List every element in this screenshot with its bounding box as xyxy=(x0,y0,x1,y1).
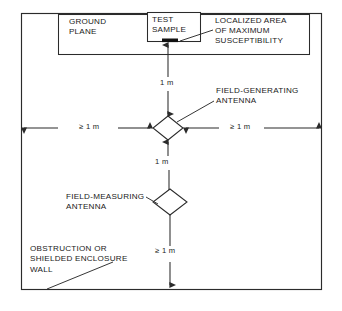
field-generating-antenna-leader-line xyxy=(177,101,214,122)
dimension-sample-to-generating-antenna: 1 m xyxy=(158,78,176,87)
dimension-bottom-clearance: ≥ 1 m xyxy=(153,246,177,255)
obstruction-wall-label: OBSTRUCTION OR SHIELDED ENCLOSURE WALL xyxy=(30,244,128,275)
field-generating-antenna-diamond xyxy=(153,116,183,140)
ground-plane-label: GROUND PLANE xyxy=(69,17,106,37)
dimension-generating-to-measuring-antenna: 1 m xyxy=(153,157,171,166)
localized-susceptibility-mark xyxy=(162,39,178,43)
field-generating-antenna-label: FIELD-GENERATING ANTENNA xyxy=(216,86,299,107)
radiated-susceptibility-diagram: GROUND PLANE TEST SAMPLE LOCALIZED AREA … xyxy=(0,0,342,311)
dimension-right-clearance: ≥ 1 m xyxy=(228,122,252,131)
field-measuring-antenna-diamond xyxy=(153,189,187,215)
field-measuring-antenna-label: FIELD-MEASURING ANTENNA xyxy=(66,192,144,213)
test-sample-label: TEST SAMPLE xyxy=(152,15,186,35)
localized-area-label: LOCALIZED AREA OF MAXIMUM SUSCEPTIBILITY xyxy=(215,16,287,47)
dimension-left-clearance: ≥ 1 m xyxy=(77,122,101,131)
